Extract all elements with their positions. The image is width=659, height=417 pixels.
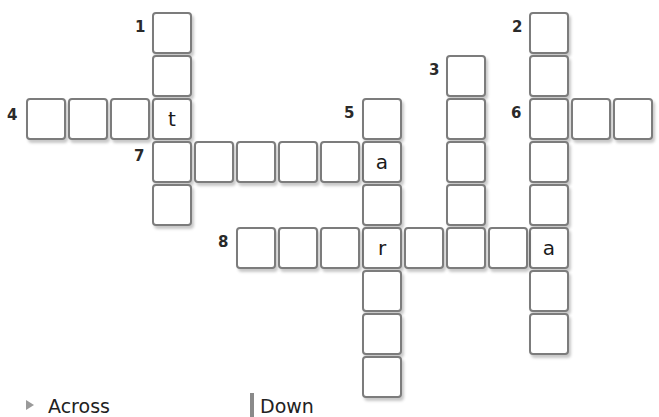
triangle-arrow-icon	[26, 400, 34, 410]
across-label: Across	[48, 395, 110, 417]
grid-cell[interactable]: a	[529, 227, 569, 269]
clue-number-4: 4	[7, 106, 17, 124]
grid-cell[interactable]	[320, 227, 360, 269]
clue-number-8: 8	[218, 233, 228, 251]
clue-number-2: 2	[512, 18, 522, 36]
grid-cell[interactable]	[278, 141, 318, 183]
clue-number-5: 5	[344, 104, 354, 122]
grid-cell[interactable]	[152, 12, 192, 54]
grid-cell[interactable]	[152, 55, 192, 97]
grid-cell[interactable]	[446, 227, 486, 269]
clue-number-1: 1	[135, 18, 145, 36]
grid-cell[interactable]	[68, 98, 108, 140]
vertical-bar-icon	[250, 393, 254, 417]
grid-cell[interactable]	[446, 98, 486, 140]
clue-number-6: 6	[511, 104, 521, 122]
grid-cell[interactable]	[529, 270, 569, 312]
grid-cell[interactable]	[278, 227, 318, 269]
grid-cell[interactable]	[362, 98, 402, 140]
grid-cell[interactable]: t	[152, 98, 192, 140]
down-label: Down	[260, 395, 314, 417]
grid-cell[interactable]	[236, 227, 276, 269]
grid-cell[interactable]	[613, 98, 653, 140]
grid-cell[interactable]	[529, 12, 569, 54]
grid-cell[interactable]	[404, 227, 444, 269]
grid-cell[interactable]	[529, 184, 569, 226]
grid-cell[interactable]	[152, 184, 192, 226]
legend-across: Across	[48, 395, 110, 417]
grid-cell[interactable]	[194, 141, 234, 183]
grid-cell[interactable]	[529, 98, 569, 140]
clue-number-3: 3	[429, 61, 439, 79]
grid-cell[interactable]	[320, 141, 360, 183]
grid-cell[interactable]	[152, 141, 192, 183]
grid-cell[interactable]: r	[362, 227, 402, 269]
grid-cell[interactable]	[446, 184, 486, 226]
grid-cell[interactable]	[446, 55, 486, 97]
grid-cell[interactable]	[362, 270, 402, 312]
grid-cell[interactable]	[236, 141, 276, 183]
grid-cell[interactable]	[362, 356, 402, 398]
grid-cell[interactable]	[488, 227, 528, 269]
grid-cell[interactable]	[362, 184, 402, 226]
grid-cell[interactable]	[110, 98, 150, 140]
grid-cell[interactable]	[529, 141, 569, 183]
grid-cell[interactable]	[446, 141, 486, 183]
grid-cell[interactable]	[529, 55, 569, 97]
clue-number-7: 7	[134, 147, 144, 165]
grid-cell[interactable]	[362, 313, 402, 355]
grid-cell[interactable]	[26, 98, 66, 140]
grid-cell[interactable]: a	[362, 141, 402, 183]
grid-cell[interactable]	[571, 98, 611, 140]
grid-cell[interactable]	[529, 313, 569, 355]
legend-down: Down	[260, 395, 314, 417]
